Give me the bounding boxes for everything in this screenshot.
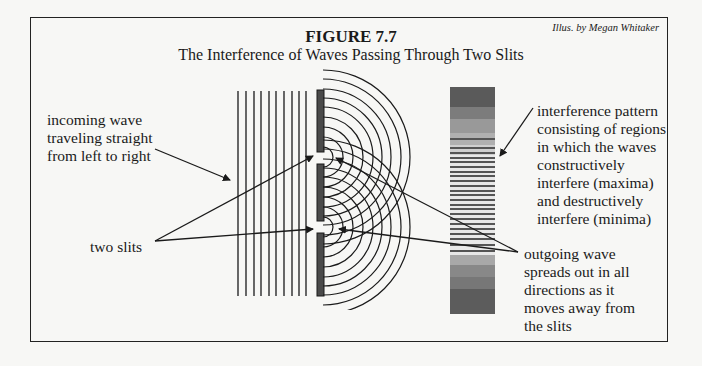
two-slits-label: two slits	[90, 238, 142, 256]
incoming-wavefronts	[238, 91, 306, 296]
incoming-wave-arrow	[155, 149, 230, 180]
two-slits-arrow-upper	[155, 156, 313, 241]
outgoing-wave-label: outgoing wave spreads out in all directi…	[524, 245, 635, 335]
incoming-wave-label: incoming wave traveling straight from le…	[47, 111, 152, 165]
two-slits-arrow-lower	[155, 229, 313, 241]
barrier	[317, 90, 324, 296]
interference-pattern-label: interference pattern consisting of regio…	[537, 102, 666, 228]
interference-arrow	[500, 108, 533, 156]
interference-pattern	[450, 87, 495, 314]
